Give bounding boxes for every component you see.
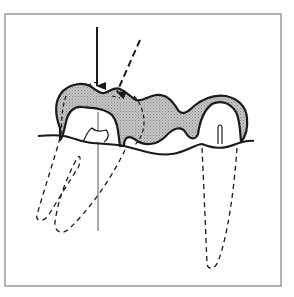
dashed-load-arrow [117,40,140,92]
left-abutment-roots [37,138,125,232]
figure-frame [5,14,281,286]
right-pulp-canal [218,125,222,144]
right-abutment-root [202,148,237,268]
left-pulp-chamber [83,128,108,142]
dental-diagram [0,0,294,297]
